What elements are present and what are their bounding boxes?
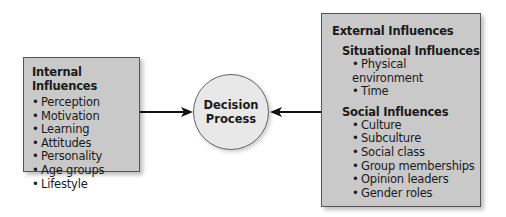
list-item: Gender roles [352,187,480,201]
list-item: Motivation [32,110,139,124]
list-item: Subculture [352,132,480,146]
social-influences-title: Social Influences [342,105,480,119]
social-influences-list: Culture Subculture Social class Group me… [352,119,480,201]
situational-influences-title: Situational Influences [342,44,480,58]
list-item: Lifestyle [32,178,139,192]
list-item: Opinion leaders [352,173,480,187]
list-item: Time [352,85,480,99]
decision-process-line1: Decision [204,98,259,112]
list-item: Learning [32,123,139,137]
decision-process-node: Decision Process [193,74,269,150]
list-item: Culture [352,119,480,133]
internal-influences-box: Internal Influences Perception Motivatio… [23,57,140,172]
list-item: Group memberships [352,160,480,174]
list-item: Age groups [32,164,139,178]
list-item: Social class [352,146,480,160]
external-influences-title: External Influences [332,24,480,38]
decision-process-line2: Process [204,112,259,126]
list-item: Attitudes [32,137,139,151]
internal-influences-title: Internal Influences [32,65,139,93]
external-influences-box: External Influences Situational Influenc… [321,13,481,207]
list-item: Perception [32,96,139,110]
list-item: Personality [32,150,139,164]
internal-influences-list: Perception Motivation Learning Attitudes… [32,96,139,191]
list-item: Physical environment [352,58,480,85]
situational-influences-list: Physical environment Time [352,58,480,99]
